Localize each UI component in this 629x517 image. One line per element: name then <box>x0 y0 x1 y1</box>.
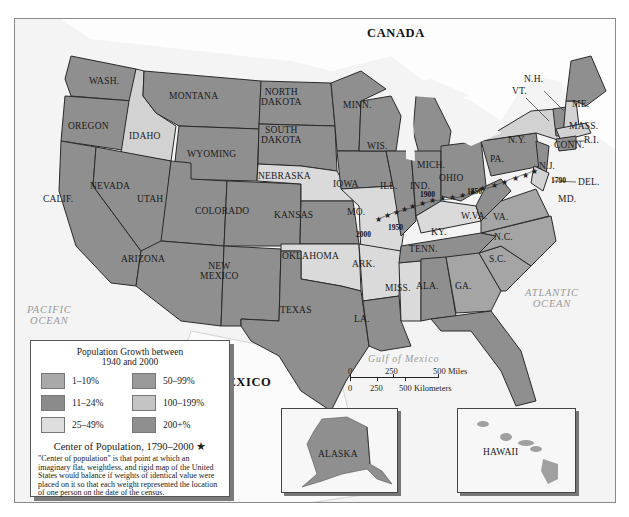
svg-text:★: ★ <box>449 193 456 202</box>
svg-text:★: ★ <box>512 174 519 183</box>
label-kansas: KANSAS <box>274 210 313 220</box>
label-iowa: IOWA <box>333 179 359 189</box>
label-la: LA. <box>354 314 370 324</box>
lake-huron <box>451 111 471 136</box>
legend-item-label: 1–10% <box>72 376 99 386</box>
label-tenn: TENN. <box>409 244 438 254</box>
label-ark: ARK. <box>352 259 375 269</box>
pacific-line1: PACIFIC <box>27 304 72 315</box>
label-miss: MISS. <box>385 283 411 293</box>
label-md: MD. <box>558 194 576 204</box>
legend-item-label: 100–199% <box>163 398 204 408</box>
label-ny: N.Y. <box>508 135 526 145</box>
label-canada: CANADA <box>367 26 425 41</box>
legend-item-label: 11–24% <box>72 398 103 408</box>
label-gulf-of-mexico: Gulf of Mexico <box>368 353 439 364</box>
swatch-1-10 <box>41 373 65 389</box>
center-of-population-title: Center of Population, 1790–2000 ★ <box>37 440 223 452</box>
legend-title: Population Growth between 1940 and 2000 <box>37 347 223 367</box>
scale-tick <box>393 374 394 378</box>
scale-km-500: 500 Kilometers <box>399 383 452 393</box>
legend-title-line1: Population Growth between <box>37 347 223 357</box>
swatch-100-199 <box>132 395 156 411</box>
scale-bar: 0 250 500 Miles 0 250 500 Kilometers <box>347 366 477 394</box>
year-2000: 2000 <box>356 230 371 239</box>
svg-text:★: ★ <box>491 181 498 190</box>
legend-swatches: 1–10% 50–99% 11–24% 100–199% 25–49% 200+… <box>37 373 223 433</box>
label-oklahoma: OKLAHOMA <box>282 251 339 261</box>
center-of-population-description: "Center of population" is that point at … <box>37 455 223 498</box>
svg-text:★: ★ <box>409 202 416 211</box>
svg-text:★: ★ <box>401 205 408 214</box>
label-del: DEL. <box>578 177 600 187</box>
scale-tick <box>438 374 439 378</box>
label-vt: VT. <box>512 86 527 96</box>
svg-text:★: ★ <box>439 194 446 203</box>
label-nc: N.C. <box>494 232 513 242</box>
label-wash: WASH. <box>89 76 119 86</box>
svg-text:★: ★ <box>393 208 400 217</box>
south-dakota-line2: DAKOTA <box>261 135 302 145</box>
label-new-mexico: NEW MEXICO <box>200 261 239 281</box>
legend-item-label: 25–49% <box>72 420 104 430</box>
label-conn: CONN. <box>554 140 584 150</box>
swatch-11-24 <box>41 395 65 411</box>
scale-miles-250: 250 <box>385 366 398 376</box>
label-south-dakota: SOUTH DAKOTA <box>261 125 302 145</box>
north-dakota-line1: NORTH <box>261 87 302 97</box>
svg-text:★: ★ <box>531 167 538 176</box>
legend-item: 100–199% <box>132 395 223 411</box>
label-atlantic-ocean: ATLANTIC OCEAN <box>525 287 579 309</box>
label-ohio: OHIO <box>439 173 464 183</box>
label-oregon: OREGON <box>68 121 109 131</box>
pacific-line2: OCEAN <box>27 315 72 326</box>
swatch-25-49 <box>41 417 65 433</box>
atlantic-line2: OCEAN <box>525 298 579 309</box>
year-1790: 1790 <box>551 176 566 185</box>
svg-text:★: ★ <box>419 199 426 208</box>
new-mexico-line2: MEXICO <box>200 271 239 281</box>
label-nevada: NEVADA <box>90 181 130 191</box>
scale-km-250: 250 <box>370 383 383 393</box>
legend-item: 200+% <box>132 417 223 433</box>
label-ri: R.I. <box>584 135 599 145</box>
legend-item: 11–24% <box>41 395 132 411</box>
swatch-50-99 <box>132 373 156 389</box>
label-ga: GA. <box>455 281 472 291</box>
svg-text:★: ★ <box>375 215 382 224</box>
scale-km-0: 0 <box>348 383 352 393</box>
label-mass: MASS. <box>569 121 598 131</box>
year-1850: 1850 <box>467 187 482 196</box>
hawaii-inset: HAWAII <box>457 408 576 493</box>
legend-title-line2: 1940 and 2000 <box>37 357 223 367</box>
label-colorado: COLORADO <box>195 206 249 216</box>
svg-text:★: ★ <box>501 178 508 187</box>
label-montana: MONTANA <box>169 91 218 101</box>
north-dakota-line2: DAKOTA <box>261 97 302 107</box>
atlantic-line1: ATLANTIC <box>525 287 579 298</box>
label-pacific-ocean: PACIFIC OCEAN <box>27 304 72 326</box>
legend-item: 25–49% <box>41 417 132 433</box>
label-me: ME. <box>572 99 589 109</box>
legend-item-label: 50–99% <box>163 376 195 386</box>
label-calif: CALIF. <box>43 194 73 204</box>
label-utah: UTAH <box>137 194 163 204</box>
swatch-200-plus <box>132 417 156 433</box>
label-nj: N.J. <box>539 161 555 171</box>
label-mich: MICH. <box>417 160 445 170</box>
svg-text:★: ★ <box>384 211 391 220</box>
label-hawaii: HAWAII <box>483 447 518 457</box>
label-alaska: ALASKA <box>318 449 358 459</box>
south-dakota-line1: SOUTH <box>261 125 302 135</box>
label-texas: TEXAS <box>280 305 312 315</box>
label-minn: MINN. <box>343 100 372 110</box>
label-wis: WIS. <box>367 141 388 151</box>
svg-text:★: ★ <box>522 171 529 180</box>
legend-item-label: 200+% <box>163 420 191 430</box>
legend-item: 50–99% <box>132 373 223 389</box>
label-mo: MO. <box>347 207 365 217</box>
legend-item: 1–10% <box>41 373 132 389</box>
label-pa: PA. <box>490 154 504 164</box>
new-mexico-line1: NEW <box>200 261 239 271</box>
label-arizona: ARIZONA <box>121 254 165 264</box>
